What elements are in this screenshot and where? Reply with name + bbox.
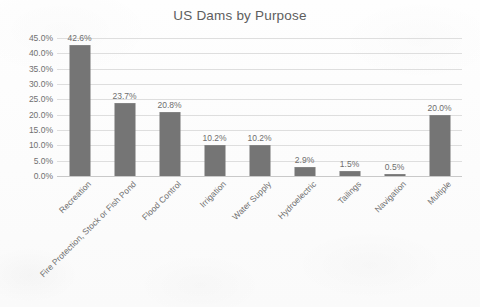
y-axis-tick-label: 5.0% (5, 156, 53, 166)
x-axis: RecreationFire Protection, Stock or Fish… (57, 179, 462, 307)
bar-series: 42.6%23.7%20.8%10.2%10.2%2.9%1.5%0.5%20.… (57, 38, 462, 176)
x-axis-tick-label: Fire Protection, Stock or Fish Pond (37, 179, 137, 279)
bar[interactable] (429, 115, 450, 176)
x-axis-tick-label: Recreation (56, 179, 92, 215)
y-axis: 45.0%40.0%35.0%30.0%25.0%20.0%15.0%10.0%… (0, 38, 53, 176)
bar-group: 23.7% (102, 38, 147, 176)
bar-group: 0.5% (372, 38, 417, 176)
y-axis-tick-label: 0.0% (5, 171, 53, 181)
bar-value-label: 2.9% (295, 155, 314, 165)
y-axis-tick-label: 30.0% (5, 79, 53, 89)
bar-value-label: 0.5% (385, 162, 404, 172)
bar-value-label: 20.8% (157, 100, 181, 110)
x-axis-tick-label: Multiple (425, 179, 453, 207)
y-axis-tick-label: 45.0% (5, 33, 53, 43)
y-axis-tick-label: 20.0% (5, 110, 53, 120)
bar-group: 42.6% (57, 38, 102, 176)
bar[interactable] (294, 167, 315, 176)
bar[interactable] (384, 174, 405, 177)
y-axis-tick-label: 25.0% (5, 94, 53, 104)
y-axis-tick-label: 10.0% (5, 140, 53, 150)
x-axis-tick-label: Navigation (372, 179, 407, 214)
y-axis-tick-label: 35.0% (5, 64, 53, 74)
bar-group: 10.2% (192, 38, 237, 176)
axis-baseline (57, 176, 462, 177)
x-axis-tick-label: Hydroelectric (275, 179, 317, 221)
x-axis-tick-label: Tailings (335, 179, 362, 206)
x-axis-tick-label: Water Supply (230, 179, 273, 222)
x-axis-tick-label: Flood Control (139, 179, 182, 222)
chart-screenshot: US Dams by Purpose 45.0%40.0%35.0%30.0%2… (0, 0, 480, 307)
bar-value-label: 23.7% (112, 91, 136, 101)
bar-value-label: 10.2% (247, 133, 271, 143)
y-axis-tick-label: 15.0% (5, 125, 53, 135)
bar-value-label: 42.6% (67, 33, 91, 43)
bar-group: 20.0% (417, 38, 462, 176)
bar-value-label: 20.0% (427, 103, 451, 113)
bar-group: 2.9% (282, 38, 327, 176)
bar[interactable] (69, 45, 90, 176)
bar-group: 1.5% (327, 38, 372, 176)
bar[interactable] (204, 145, 225, 176)
bar-value-label: 1.5% (340, 159, 359, 169)
y-axis-tick-label: 40.0% (5, 48, 53, 58)
bar[interactable] (249, 145, 270, 176)
bar[interactable] (339, 171, 360, 176)
bar-group: 20.8% (147, 38, 192, 176)
bar[interactable] (114, 103, 135, 176)
page-title: US Dams by Purpose (0, 8, 480, 23)
bar[interactable] (159, 112, 180, 176)
bar-value-label: 10.2% (202, 133, 226, 143)
bar-group: 10.2% (237, 38, 282, 176)
x-axis-tick-label: Irrigation (197, 179, 227, 209)
